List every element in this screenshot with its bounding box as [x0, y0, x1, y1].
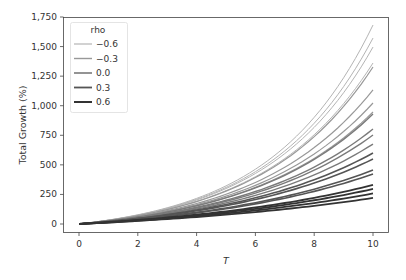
- x-tick-label: 10: [367, 239, 379, 249]
- x-tick-label: 0: [76, 239, 82, 249]
- legend-label: −0.3: [96, 54, 118, 64]
- y-axis-label: Total Growth (%): [17, 85, 28, 165]
- x-axis-label: T: [223, 255, 230, 266]
- y-tick-label: 500: [40, 160, 57, 170]
- series-line: [79, 174, 373, 224]
- y-tick-label: 1,000: [31, 101, 57, 111]
- y-tick-label: 1,250: [31, 71, 57, 81]
- legend-label: −0.6: [96, 39, 118, 49]
- legend-title: rho: [91, 25, 106, 35]
- legend: rho −0.6−0.30.00.30.6: [71, 23, 128, 113]
- y-tick-label: 250: [40, 189, 57, 199]
- y-axis: 02505007501,0001,2501,5001,750: [31, 12, 63, 229]
- legend-label: 0.6: [96, 97, 111, 107]
- y-tick-label: 1,750: [31, 12, 57, 22]
- x-axis: 0246810: [76, 233, 379, 250]
- x-tick-label: 8: [311, 239, 317, 249]
- x-tick-label: 6: [253, 239, 259, 249]
- line-chart: 02505007501,0001,2501,5001,750 0246810 T…: [0, 0, 406, 280]
- y-tick-label: 0: [51, 219, 57, 229]
- x-tick-label: 4: [194, 239, 200, 249]
- legend-label: 0.3: [96, 83, 110, 93]
- x-tick-label: 2: [135, 239, 141, 249]
- y-tick-label: 750: [40, 130, 57, 140]
- y-tick-label: 1,500: [31, 42, 57, 52]
- legend-label: 0.0: [96, 68, 111, 78]
